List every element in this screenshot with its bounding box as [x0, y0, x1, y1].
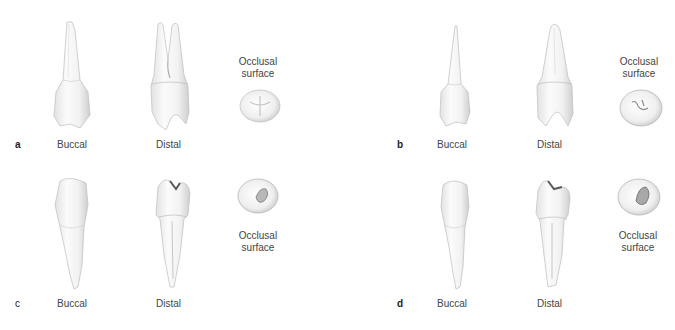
buccal-view-tooth-c — [50, 175, 92, 291]
panel-letter-d: d — [397, 298, 403, 309]
panel-letter-a: a — [15, 139, 21, 150]
buccal-label-d: Buccal — [437, 298, 467, 309]
buccal-label-b: Buccal — [437, 139, 467, 150]
occlusal-view-tooth-c — [236, 177, 280, 215]
distal-view-tooth-b — [532, 22, 578, 130]
distal-label-d: Distal — [537, 298, 562, 309]
buccal-label-c: Buccal — [57, 298, 87, 309]
panel-b: Occlusal surface b Buccal Distal — [380, 0, 675, 165]
occlusal-view-tooth-d — [616, 177, 662, 217]
panel-d: Occlusal surface d Buccal Distal — [380, 165, 675, 330]
buccal-view-tooth-d — [435, 177, 477, 291]
occlusal-view-tooth-a — [238, 88, 282, 124]
occlusal-surface-label-a: Occlusal surface — [228, 56, 288, 80]
buccal-label-a: Buccal — [57, 139, 87, 150]
panel-a: Occlusal surface a Buccal Distal — [0, 0, 337, 165]
distal-label-c: Distal — [156, 298, 181, 309]
occlusal-view-tooth-b — [618, 88, 664, 128]
distal-view-tooth-d — [530, 175, 576, 291]
panel-letter-b: b — [397, 139, 403, 150]
buccal-view-tooth-a — [50, 20, 95, 130]
panel-c: Occlusal surface c Buccal Distal — [0, 165, 337, 330]
occlusal-surface-label-d: Occlusal surface — [608, 230, 668, 254]
occlusal-surface-label-b: Occlusal surface — [609, 56, 669, 80]
buccal-view-tooth-b — [434, 24, 476, 130]
distal-label-b: Distal — [537, 139, 562, 150]
panel-letter-c: c — [15, 298, 20, 309]
distal-view-tooth-c — [150, 175, 194, 291]
distal-view-tooth-a — [146, 20, 194, 130]
distal-label-a: Distal — [156, 139, 181, 150]
occlusal-surface-label-c: Occlusal surface — [228, 230, 288, 254]
